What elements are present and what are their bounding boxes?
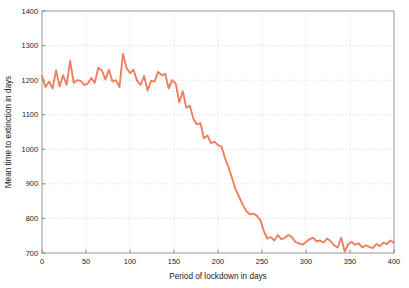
x-tick-label: 200 <box>212 257 224 266</box>
y-tick-label: 800 <box>26 214 38 223</box>
x-tick-label: 150 <box>168 257 180 266</box>
chart-figure: 050100150200250300350400 700800900100011… <box>0 0 409 288</box>
x-axis-title: Period of lockdown in days <box>169 272 266 281</box>
x-tick-label: 250 <box>256 257 268 266</box>
y-tick-label: 1300 <box>22 41 38 50</box>
x-tick-label: 350 <box>344 257 356 266</box>
y-tick-label: 1200 <box>22 76 38 85</box>
x-tick-label: 0 <box>40 257 44 266</box>
x-tick-label: 50 <box>82 257 90 266</box>
y-tick-label: 900 <box>26 179 38 188</box>
line-chart: 050100150200250300350400 700800900100011… <box>0 0 409 288</box>
x-tick-label: 300 <box>300 257 312 266</box>
y-tick-label: 1000 <box>22 145 38 154</box>
x-tick-label: 400 <box>388 257 400 266</box>
y-tick-label: 1400 <box>22 7 38 16</box>
y-axis-title: Mean time to extinction in days <box>4 76 13 188</box>
y-tick-label: 700 <box>26 249 38 258</box>
y-tick-label: 1100 <box>22 110 38 119</box>
x-tick-label: 100 <box>124 257 136 266</box>
